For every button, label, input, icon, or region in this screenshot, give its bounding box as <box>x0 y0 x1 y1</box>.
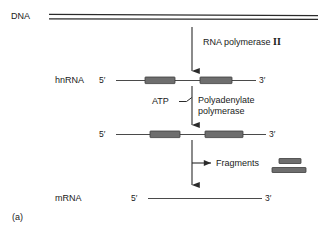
atp-label: ATP <box>152 96 169 107</box>
excised-fragments <box>272 159 306 173</box>
rna-polymerase-ii-label: RNA polymerase II <box>203 36 281 48</box>
dna-row-label: DNA <box>11 11 30 22</box>
panel-label: (a) <box>12 212 23 223</box>
long-fragment-bar <box>272 168 306 173</box>
atp-connector-line <box>179 98 192 102</box>
dna-double-strand <box>49 14 318 19</box>
polyadenylated-three-prime-label: 3′ <box>269 129 275 140</box>
polyadenylated-strand <box>116 131 266 138</box>
polyadenylated-five-prime-label: 5′ <box>99 129 105 140</box>
hnrna-strand <box>116 77 256 84</box>
hnrna-segment-box-2 <box>200 77 232 84</box>
mrna-five-prime-label: 5′ <box>131 193 137 204</box>
rna-polymerase-numeral: II <box>273 36 281 47</box>
polyadenylate-polymerase-line1: Polyadenylate <box>198 95 255 106</box>
dna-strand-top <box>49 14 318 15</box>
polyadenylated-segment-box-1 <box>150 131 180 138</box>
hnrna-three-prime-label: 3′ <box>259 75 265 86</box>
fragments-label: Fragments <box>216 158 259 169</box>
hnrna-segment-box-1 <box>145 77 175 84</box>
figure-panel-a: DNA RNA polymerase II hnRNA 5′ 3′ ATP Po… <box>0 0 324 232</box>
rna-polymerase-name: RNA polymerase <box>203 37 271 47</box>
hnrna-five-prime-label: 5′ <box>99 75 105 86</box>
polyadenylate-polymerase-line2: polymerase <box>198 106 245 117</box>
dna-strand-bottom <box>49 19 318 20</box>
mrna-three-prime-label: 3′ <box>265 193 271 204</box>
mrna-row-label: mRNA <box>55 193 82 204</box>
short-fragment-bar <box>279 159 301 164</box>
diagram-canvas <box>0 0 324 232</box>
polyadenylated-segment-box-2 <box>205 131 243 138</box>
hnrna-row-label: hnRNA <box>55 75 84 86</box>
